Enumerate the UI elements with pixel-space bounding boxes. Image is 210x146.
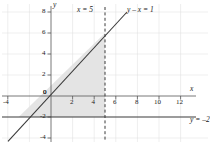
x-tick-label-4: 4: [92, 99, 96, 106]
y-tick-label-4: 4: [42, 50, 46, 57]
graph-figure: y x 8 6 4 2 0 -2 -4 -4 0 2 4 6 8 10 12 x…: [0, 0, 210, 146]
annotation-y-equals-minus-2: y = –2: [190, 116, 210, 124]
y-tick-label-neg4: -4: [40, 134, 46, 141]
x-tick-label-6: 6: [113, 99, 117, 106]
x-tick-label-10: 10: [154, 99, 161, 106]
y-axis-label: y: [53, 1, 56, 9]
x-tick-label-12: 12: [176, 99, 183, 106]
x-tick-label-8: 8: [135, 99, 139, 106]
y-tick-label-6: 6: [42, 29, 46, 36]
y-tick-label-2: 2: [42, 71, 46, 78]
annotation-x-equals-5: x = 5: [77, 6, 93, 14]
annotation-line-equation: y – x = 1: [127, 6, 154, 14]
coordinate-plot: [0, 0, 210, 146]
y-axis-ticks: [48, 12, 52, 138]
x-tick-label-0: 0: [43, 89, 47, 96]
x-tick-label-2: 2: [70, 99, 74, 106]
y-tick-label-neg2: -2: [40, 113, 46, 120]
x-axis-label: x: [190, 85, 193, 93]
x-tick-label-neg4: -4: [3, 99, 9, 106]
y-tick-label-8: 8: [42, 8, 46, 15]
line-y-minus-x-equals-1: [8, 12, 127, 141]
